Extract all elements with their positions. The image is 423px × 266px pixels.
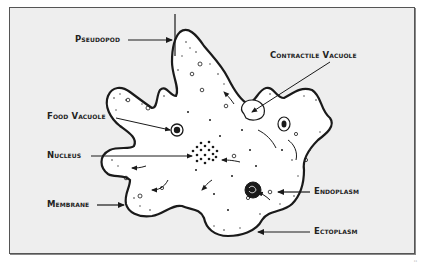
food-vacuole-shape xyxy=(171,124,183,136)
label-nucleus: Nucleus xyxy=(47,151,81,160)
image-credit: ¹¹ xyxy=(414,259,417,264)
label-food-vacuole: Food Vacuole xyxy=(47,112,106,121)
amoeba-illustration xyxy=(0,0,423,266)
label-endoplasm: Endoplasm xyxy=(314,187,359,196)
label-ectoplasm: Ectoplasm xyxy=(314,227,357,236)
contractile-vacuole-shape xyxy=(242,100,265,120)
label-contractile-vacuole: Contractile Vacuole xyxy=(270,51,357,60)
label-membrane: Membrane xyxy=(47,200,89,209)
label-pseudopod: Pseudopod xyxy=(75,35,120,44)
vacuole-right xyxy=(278,117,290,131)
food-particle-large xyxy=(245,182,261,198)
